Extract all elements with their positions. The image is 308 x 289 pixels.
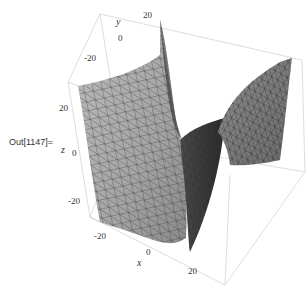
x-tick-0: 0 <box>146 247 151 257</box>
y-tick-neg20: -20 <box>84 53 96 63</box>
y-tick-20: 20 <box>143 10 152 20</box>
z-axis-label: z <box>61 144 65 155</box>
x-tick-20: 20 <box>188 266 197 276</box>
z-tick-0: 0 <box>72 148 77 158</box>
z-tick-20: 20 <box>59 103 68 113</box>
y-tick-0: 0 <box>118 33 123 43</box>
x-tick-neg20: -20 <box>94 231 106 241</box>
surface-plot-3d[interactable] <box>0 0 308 289</box>
x-axis-label: x <box>137 257 141 268</box>
z-tick-neg20: -20 <box>68 196 80 206</box>
y-axis-label: y <box>116 16 120 27</box>
